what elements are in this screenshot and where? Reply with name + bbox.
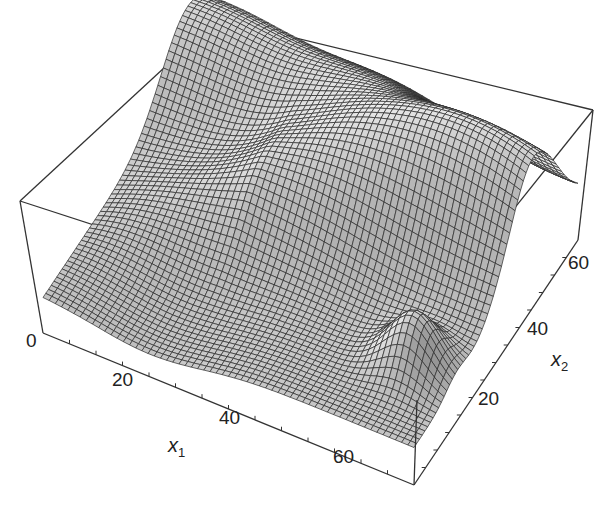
x2-tick-40: 40 (527, 318, 548, 340)
x2-axis-label: x2 (551, 348, 568, 374)
surface-plot (0, 0, 609, 510)
x1-tick-0: 0 (26, 330, 37, 352)
x1-tick-60: 60 (333, 446, 354, 468)
x1-axis-label: x1 (168, 434, 185, 460)
x1-tick-40: 40 (219, 407, 240, 429)
x2-tick-20: 20 (478, 388, 499, 410)
x1-tick-20: 20 (112, 369, 133, 391)
x2-tick-60: 60 (568, 252, 589, 274)
